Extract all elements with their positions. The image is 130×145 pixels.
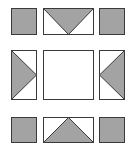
tile-middle-left — [12, 51, 37, 100]
tile-top-middle — [44, 9, 94, 35]
tile-bottom-right — [100, 118, 125, 143]
tile-top-right — [100, 9, 125, 35]
tile-bottom-middle — [44, 118, 94, 143]
tile-top-left — [12, 9, 37, 35]
tile-bottom-left — [12, 118, 37, 143]
tile-middle-right — [100, 51, 125, 100]
tile-center — [44, 51, 94, 100]
tile-diagram — [0, 0, 130, 145]
